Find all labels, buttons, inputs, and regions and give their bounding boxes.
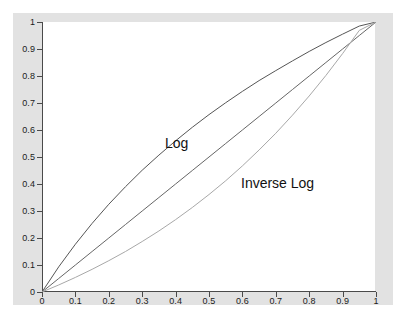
chart-page: 00.10.20.30.40.50.60.70.80.91 00.10.20.3…: [0, 0, 406, 325]
annotation-log: Log: [165, 136, 188, 150]
x-tick-label: 0.5: [196, 297, 222, 306]
y-tick-label: 0.2: [9, 234, 35, 243]
y-tick-label: 0.6: [9, 126, 35, 135]
y-tick-label: 0.3: [9, 207, 35, 216]
x-tick-label: 0.8: [296, 297, 322, 306]
x-tick-label: 1: [363, 297, 389, 306]
figure-canvas: 00.10.20.30.40.50.60.70.80.91 00.10.20.3…: [13, 13, 393, 305]
data-curves: [42, 22, 376, 292]
x-tick-label: 0.3: [129, 297, 155, 306]
x-tick-label: 0.2: [96, 297, 122, 306]
y-tick-label: 0.9: [9, 45, 35, 54]
y-tick-label: 0.1: [9, 261, 35, 270]
y-tick-label: 0.8: [9, 72, 35, 81]
curve-linear: [42, 22, 376, 292]
y-tick-label: 1: [9, 18, 35, 27]
annotation-inverse-log: Inverse Log: [241, 176, 314, 190]
y-tick-label: 0.4: [9, 180, 35, 189]
x-tick-label: 0.1: [62, 297, 88, 306]
x-tick-label: 0: [29, 297, 55, 306]
x-tick-label: 0.6: [229, 297, 255, 306]
x-tick-label: 0.7: [263, 297, 289, 306]
x-tick-label: 0.4: [163, 297, 189, 306]
x-tick-label: 0.9: [330, 297, 356, 306]
y-tick-label: 0: [9, 288, 35, 297]
y-tick-label: 0.7: [9, 99, 35, 108]
y-tick-label: 0.5: [9, 153, 35, 162]
